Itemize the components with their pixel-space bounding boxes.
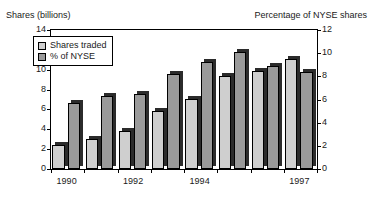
right-axis-tick-label: 0 bbox=[322, 164, 338, 173]
bar-shares-traded bbox=[185, 96, 200, 169]
bar-front-face bbox=[219, 76, 231, 169]
right-axis-tick-label: 4 bbox=[322, 118, 338, 127]
bar-front-face bbox=[134, 94, 146, 169]
left-axis-tick-label: 10 bbox=[30, 65, 46, 74]
bar-side-face bbox=[213, 59, 216, 166]
x-axis-tickmark bbox=[118, 169, 119, 173]
right-axis-tick-labels: 121086420 bbox=[322, 29, 340, 170]
bar-side-face bbox=[246, 49, 249, 166]
x-axis-tick-labels: 1990199219941997 bbox=[50, 176, 318, 190]
bar-front-face bbox=[119, 131, 131, 169]
chart-legend: Shares traded % of NYSE bbox=[33, 36, 113, 66]
left-axis-tick-label: 0 bbox=[30, 164, 46, 173]
bar-front-face bbox=[52, 145, 64, 169]
bar-group bbox=[284, 30, 317, 169]
x-axis-tickmark bbox=[184, 169, 185, 173]
right-axis-tickmark bbox=[317, 146, 321, 147]
bar-front-face bbox=[167, 74, 179, 169]
right-axis-tick-label: 6 bbox=[322, 95, 338, 104]
bar-group bbox=[151, 30, 184, 169]
left-axis-tick-label: 2 bbox=[30, 144, 46, 153]
legend-item-shares-traded: Shares traded bbox=[38, 40, 107, 51]
bar-pct-of-nyse bbox=[134, 91, 149, 169]
bar-front-face bbox=[252, 71, 264, 169]
bar-group bbox=[118, 30, 151, 169]
x-axis-tick-label: 1992 bbox=[123, 176, 143, 186]
right-axis-tickmark bbox=[317, 76, 321, 77]
legend-swatch-icon bbox=[38, 42, 46, 50]
bar-front-face bbox=[101, 96, 113, 169]
bar-front-face bbox=[300, 72, 312, 169]
bar-shares-traded bbox=[86, 136, 101, 169]
left-axis-title: Shares (billions) bbox=[6, 10, 71, 20]
bar-shares-traded bbox=[119, 128, 134, 169]
bar-shares-traded bbox=[285, 56, 300, 169]
bar-front-face bbox=[285, 59, 297, 169]
bar-pct-of-nyse bbox=[101, 93, 116, 169]
x-axis-tickmark bbox=[251, 169, 252, 173]
right-axis-tick-label: 12 bbox=[322, 25, 338, 34]
left-axis-tickmark bbox=[47, 30, 51, 31]
x-axis-tick-label: 1994 bbox=[190, 176, 210, 186]
bar-front-face bbox=[152, 111, 164, 169]
bar-front-face bbox=[86, 139, 98, 169]
bar-group bbox=[251, 30, 284, 169]
left-axis-tickmark bbox=[47, 70, 51, 71]
left-axis-tickmark bbox=[47, 129, 51, 130]
bar-front-face bbox=[267, 66, 279, 169]
right-axis-tick-label: 2 bbox=[322, 141, 338, 150]
right-axis-tick-label: 8 bbox=[322, 71, 338, 80]
right-axis-tickmark bbox=[317, 123, 321, 124]
left-axis-tick-label: 14 bbox=[30, 25, 46, 34]
bar-pct-of-nyse bbox=[234, 49, 249, 169]
bar-side-face bbox=[279, 63, 282, 166]
left-axis-tickmark bbox=[47, 109, 51, 110]
x-axis-tickmark bbox=[151, 169, 152, 173]
bar-side-face bbox=[180, 71, 183, 166]
bar-front-face bbox=[234, 52, 246, 169]
bar-group bbox=[217, 30, 250, 169]
bar-pct-of-nyse bbox=[300, 69, 315, 169]
left-axis-tick-label: 8 bbox=[30, 85, 46, 94]
bar-shares-traded bbox=[52, 142, 67, 169]
legend-item-label: Shares traded bbox=[50, 41, 107, 50]
bar-side-face bbox=[146, 91, 149, 166]
bar-shares-traded bbox=[252, 68, 267, 169]
bar-pct-of-nyse bbox=[167, 71, 182, 169]
x-axis-tickmark bbox=[284, 169, 285, 173]
bar-pct-of-nyse bbox=[201, 59, 216, 169]
x-axis-tickmark bbox=[51, 169, 52, 173]
right-axis-title: Percentage of NYSE shares bbox=[254, 10, 367, 20]
left-axis-tickmark bbox=[47, 90, 51, 91]
x-axis-tickmark bbox=[217, 169, 218, 173]
bar-front-face bbox=[185, 99, 197, 169]
legend-swatch-icon bbox=[38, 53, 46, 61]
bar-front-face bbox=[68, 103, 80, 169]
bar-side-face bbox=[80, 100, 83, 166]
x-axis-tickmark bbox=[317, 169, 318, 173]
bar-shares-traded bbox=[219, 73, 234, 169]
bar-side-face bbox=[113, 93, 116, 166]
legend-item-pct-of-nyse: % of NYSE bbox=[38, 51, 107, 62]
bar-group bbox=[184, 30, 217, 169]
bar-side-face bbox=[313, 69, 316, 166]
right-axis-tick-label: 10 bbox=[322, 48, 338, 57]
left-axis-tickmark bbox=[47, 149, 51, 150]
bar-shares-traded bbox=[152, 108, 167, 169]
right-axis-tickmark bbox=[317, 30, 321, 31]
bar-front-face bbox=[201, 62, 213, 169]
x-axis-tickmark bbox=[84, 169, 85, 173]
left-axis-tick-label: 4 bbox=[30, 124, 46, 133]
left-axis-tick-label: 6 bbox=[30, 104, 46, 113]
x-axis-tick-label: 1990 bbox=[57, 176, 77, 186]
x-axis-tick-label: 1997 bbox=[289, 176, 309, 186]
chart-figure: Shares (billions) Percentage of NYSE sha… bbox=[0, 0, 372, 209]
right-axis-tickmark bbox=[317, 53, 321, 54]
bar-pct-of-nyse bbox=[68, 100, 83, 169]
right-axis-tickmark bbox=[317, 100, 321, 101]
bar-pct-of-nyse bbox=[267, 63, 282, 169]
legend-item-label: % of NYSE bbox=[50, 52, 95, 61]
